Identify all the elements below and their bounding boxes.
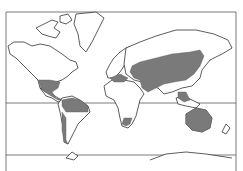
antarctica <box>66 152 232 160</box>
world-map <box>0 0 243 171</box>
new-zealand <box>222 124 230 134</box>
arctic-island-2 <box>60 14 72 24</box>
arctic-islands <box>36 20 60 38</box>
greenland <box>74 12 104 52</box>
range-south-america <box>62 98 88 112</box>
